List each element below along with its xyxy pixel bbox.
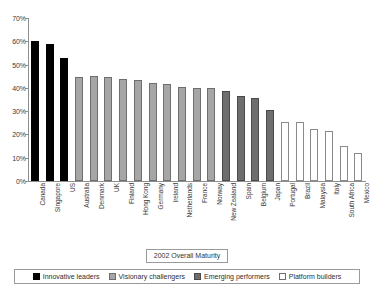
bar-slot (264, 18, 279, 181)
chart-legend: Innovative leadersVisionary challengersE… (14, 269, 360, 284)
bar-slot (132, 18, 147, 181)
x-tick-label: Denmark (88, 183, 103, 239)
y-tick-label: 20% (12, 131, 26, 138)
bar[interactable] (222, 91, 230, 181)
x-tick-label: Brazil (294, 183, 309, 239)
y-tick-mark (25, 88, 28, 89)
bar-slot (176, 18, 191, 181)
bar-slot (58, 18, 73, 181)
x-tick-label: Malaysia (308, 183, 323, 239)
y-tick-mark (25, 158, 28, 159)
bar[interactable] (207, 88, 215, 181)
bar-slot (147, 18, 162, 181)
x-tick-label: Mexico (352, 183, 367, 239)
y-axis-tick-labels: 70%60%50%40%30%20%10%0% (0, 12, 26, 184)
bar-slot (323, 18, 338, 181)
x-tick-label: Netherlands (176, 183, 191, 239)
bar-chart: 70%60%50%40%30%20%10%0% CanadaSingaporeU… (0, 0, 374, 296)
y-tick-mark (25, 111, 28, 112)
y-tick-label: 70% (12, 15, 26, 22)
x-tick-label: Ireland (161, 183, 176, 239)
y-tick-label: 60% (12, 38, 26, 45)
x-tick-label: New Zealand (220, 183, 235, 239)
bar-slot (249, 18, 264, 181)
x-tick-label: Hong Kong (132, 183, 147, 239)
bar-slot (279, 18, 294, 181)
x-tick-label: Norway (205, 183, 220, 239)
x-tick-label: Belgium (249, 183, 264, 239)
bar-slot (294, 18, 309, 181)
bar[interactable] (31, 41, 39, 181)
legend-swatch-icon (33, 273, 40, 280)
x-tick-label: Finland (117, 183, 132, 239)
x-tick-label: Germany (147, 183, 162, 239)
bar-slot (191, 18, 206, 181)
y-tick-mark (25, 181, 28, 182)
legend-item-platform[interactable]: Platform builders (279, 273, 342, 281)
bar[interactable] (149, 83, 157, 181)
bar-slot (161, 18, 176, 181)
bar[interactable] (296, 122, 304, 181)
y-tick-mark (25, 18, 28, 19)
x-tick-label-text: Mexico (363, 183, 370, 203)
bar-slot (73, 18, 88, 181)
bar[interactable] (90, 76, 98, 181)
bar[interactable] (60, 58, 68, 181)
bar[interactable] (119, 79, 127, 181)
bar[interactable] (237, 96, 245, 181)
legend-swatch-icon (279, 273, 286, 280)
x-tick-label: UK (102, 183, 117, 239)
x-axis-title: 2002 Overall Maturity (0, 244, 374, 263)
bar[interactable] (46, 44, 54, 181)
bar[interactable] (354, 153, 362, 181)
bar[interactable] (134, 80, 142, 181)
bar[interactable] (251, 98, 259, 181)
bar[interactable] (325, 131, 333, 181)
legend-label: Emerging performers (204, 273, 270, 281)
bar-slot (44, 18, 59, 181)
bar[interactable] (104, 77, 112, 181)
legend-label: Innovative leaders (43, 273, 100, 281)
legend-label: Platform builders (289, 273, 342, 281)
y-tick-mark (25, 65, 28, 66)
bar-slot (308, 18, 323, 181)
plot-area: 70%60%50%40%30%20%10%0% CanadaSingaporeU… (0, 0, 374, 240)
bar-slot (29, 18, 44, 181)
x-axis-title-label: 2002 Overall Maturity (146, 249, 229, 263)
y-tick-label: 50% (12, 61, 26, 68)
x-tick-label: Japan (264, 183, 279, 239)
x-axis-tick-labels: CanadaSingaporeUSAustraliaDenmarkUKFinla… (29, 183, 367, 239)
x-tick-label: Australia (73, 183, 88, 239)
x-tick-label: Singapore (44, 183, 59, 239)
x-tick-label: France (191, 183, 206, 239)
bar[interactable] (178, 87, 186, 181)
bar-slot (88, 18, 103, 181)
legend-label: Visionary challengers (119, 273, 185, 281)
x-tick-label: US (58, 183, 73, 239)
legend-item-visionary[interactable]: Visionary challengers (109, 273, 185, 281)
legend-item-innovative[interactable]: Innovative leaders (33, 273, 100, 281)
x-axis-line (28, 181, 366, 182)
y-tick-label: 10% (12, 154, 26, 161)
bar-slot (220, 18, 235, 181)
y-tick-label: 30% (12, 108, 26, 115)
bar-slot (338, 18, 353, 181)
bar[interactable] (281, 122, 289, 181)
x-tick-label: South Africa (338, 183, 353, 239)
legend-swatch-icon (194, 273, 201, 280)
legend-item-emerging[interactable]: Emerging performers (194, 273, 270, 281)
bars-layer (29, 18, 367, 181)
x-tick-label: Italy (323, 183, 338, 239)
bar[interactable] (193, 88, 201, 181)
bar-slot (352, 18, 367, 181)
y-tick-mark (25, 134, 28, 135)
x-tick-label: Spain (235, 183, 250, 239)
bar-slot (117, 18, 132, 181)
bar-slot (102, 18, 117, 181)
bar[interactable] (310, 129, 318, 181)
legend-swatch-icon (109, 273, 116, 280)
bar[interactable] (163, 84, 171, 181)
bar[interactable] (75, 77, 83, 181)
bar[interactable] (340, 146, 348, 181)
bar[interactable] (266, 110, 274, 181)
